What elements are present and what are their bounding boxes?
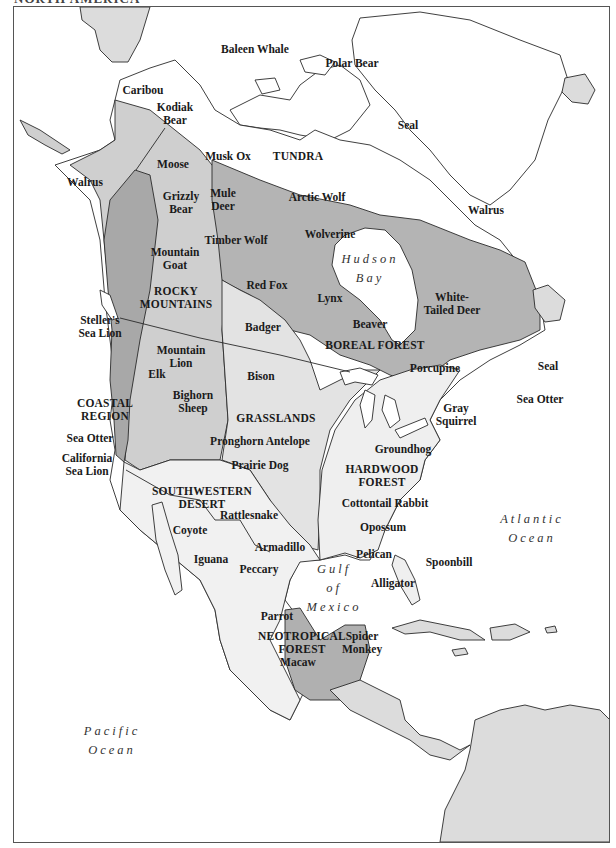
animal-label-polar-bear: Polar Bear <box>325 57 378 70</box>
animal-label-lynx: Lynx <box>318 292 343 305</box>
animal-label-timber-wolf: Timber Wolf <box>205 234 268 247</box>
animal-label-peccary: Peccary <box>240 563 279 576</box>
water-label-gulf-of-mexico: GulfofMexico <box>307 560 362 617</box>
animal-label-badger: Badger <box>245 321 281 334</box>
animal-label-sea-otter-east: Sea Otter <box>517 393 564 406</box>
animal-label-parrot: Parrot <box>261 610 293 623</box>
animal-label-opossum: Opossum <box>360 521 406 534</box>
animal-label-pelican: Pelican <box>356 548 392 561</box>
animal-label-pronghorn-antelope: Pronghorn Antelope <box>210 435 310 448</box>
water-label-pacific-ocean: PacificOcean <box>84 722 140 760</box>
water-label-hudson-bay: HudsonBay <box>342 250 399 288</box>
animal-label-seal-north: Seal <box>398 119 418 132</box>
animal-label-california-sea-lion: CaliforniaSea Lion <box>62 452 112 478</box>
siberia-landmass <box>80 7 150 62</box>
animal-label-kodiak-bear: KodiakBear <box>157 101 193 127</box>
animal-label-mountain-lion: MountainLion <box>157 344 206 370</box>
animal-label-groundhog: Groundhog <box>375 443 432 456</box>
region-label-rocky-mountains: ROCKYMOUNTAINS <box>140 285 213 311</box>
animal-label-musk-ox: Musk Ox <box>205 150 251 163</box>
animal-label-beaver: Beaver <box>353 318 387 331</box>
puerto-rico <box>545 626 557 633</box>
region-label-southwestern-desert: SOUTHWESTERNDESERT <box>152 485 252 511</box>
animal-label-elk: Elk <box>148 368 165 381</box>
animal-label-white-tailed-deer: White-Tailed Deer <box>424 291 481 317</box>
animal-label-coyote: Coyote <box>173 524 208 537</box>
region-label-grasslands: GRASSLANDS <box>236 412 315 425</box>
animal-label-prairie-dog: Prairie Dog <box>231 459 288 472</box>
animal-label-mule-deer: MuleDeer <box>210 187 236 213</box>
animal-label-sea-otter-west: Sea Otter <box>67 432 114 445</box>
aleutian-islands <box>20 120 70 154</box>
animal-label-baleen-whale: Baleen Whale <box>221 43 289 56</box>
animal-label-iguana: Iguana <box>194 553 229 566</box>
animal-label-walrus-east: Walrus <box>468 204 504 217</box>
animal-label-seal-east: Seal <box>538 360 558 373</box>
iceland-landmass <box>562 74 595 104</box>
animal-label-cottontail-rabbit: Cottontail Rabbit <box>342 497 429 510</box>
animal-label-gray-squirrel: GraySquirrel <box>436 402 477 428</box>
animal-label-porcupine: Porcupine <box>410 362 460 375</box>
region-label-neotropical-forest: NEOTROPICALFOREST <box>258 630 346 656</box>
region-label-tundra: TUNDRA <box>273 150 323 163</box>
animal-label-red-fox: Red Fox <box>246 279 287 292</box>
water-label-atlantic-ocean: AtlanticOcean <box>500 510 564 548</box>
south-america <box>440 705 610 842</box>
animal-label-arctic-wolf: Arctic Wolf <box>289 191 346 204</box>
region-label-boreal-forest: BOREAL FOREST <box>325 339 424 352</box>
animal-label-spoonbill: Spoonbill <box>426 556 473 569</box>
jamaica <box>452 648 468 656</box>
central-america <box>330 680 470 760</box>
cuba <box>392 620 485 640</box>
animal-label-wolverine: Wolverine <box>305 228 355 241</box>
animal-label-bighorn-sheep: BighornSheep <box>173 389 213 415</box>
animal-label-moose: Moose <box>157 158 189 171</box>
animal-label-rattlesnake: Rattlesnake <box>220 509 278 522</box>
animal-label-alligator: Alligator <box>371 577 415 590</box>
animal-label-walrus-west: Walrus <box>67 176 103 189</box>
region-label-coastal-region: COASTALREGION <box>77 397 133 423</box>
animal-label-caribou: Caribou <box>123 84 164 97</box>
region-label-hardwood-forest: HARDWOODFOREST <box>345 463 418 489</box>
animal-label-grizzly-bear: GrizzlyBear <box>163 190 199 216</box>
animal-label-macaw: Macaw <box>280 656 316 669</box>
animal-label-spider-monkey: SpiderMonkey <box>342 630 382 656</box>
animal-label-stellers-sea-lion: Steller'sSea Lion <box>78 314 121 340</box>
animal-label-bison: Bison <box>247 370 275 383</box>
hispaniola <box>490 624 530 640</box>
animal-label-armadillo: Armadillo <box>255 541 305 554</box>
animal-label-mountain-goat: MountainGoat <box>151 246 200 272</box>
